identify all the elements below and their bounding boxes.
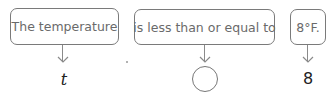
phrase-text: The temperature [12, 19, 118, 34]
phrase-text: is less than or equal to [133, 20, 275, 35]
variable-t: t [52, 70, 76, 89]
speck [126, 61, 128, 63]
phrase-box-relation: is less than or equal to [134, 9, 275, 45]
phrase-box-value: 8°F. [290, 9, 326, 45]
down-arrow-icon [199, 45, 211, 63]
down-arrow-icon [302, 45, 314, 63]
blank-symbol-circle[interactable] [192, 66, 218, 92]
phrase-box-subject: The temperature [10, 8, 119, 45]
phrase-text: 8°F. [296, 20, 319, 35]
down-arrow-icon [57, 45, 69, 63]
value-8: 8 [296, 69, 320, 88]
